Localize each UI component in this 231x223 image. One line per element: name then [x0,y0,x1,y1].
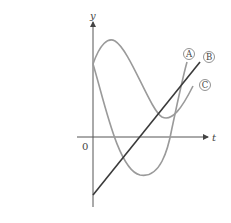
tag-a: A [184,49,195,60]
graph-svg: y t 0 A B C [0,0,231,223]
curve-c [93,40,193,118]
origin-label: 0 [82,141,88,152]
svg-text:C: C [202,80,209,90]
graph-figure: y t 0 A B C [0,0,231,223]
svg-text:B: B [206,52,212,62]
y-axis-label: y [89,10,96,21]
t-axis-label: t [212,132,217,143]
tag-c: C [200,80,211,91]
tag-b: B [204,52,215,63]
svg-text:A: A [185,49,193,59]
